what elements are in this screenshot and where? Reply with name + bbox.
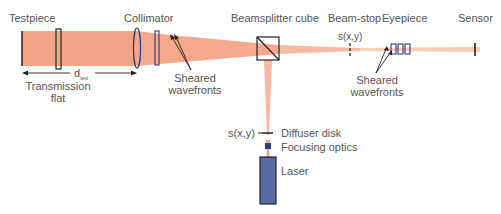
beam-narrow (278, 45, 360, 54)
laser-body (260, 157, 276, 204)
label-laser: Laser (281, 165, 309, 177)
label-sxy-bottom: s(x,y) (228, 127, 255, 139)
label-eyepiece: Eyepiece (382, 12, 427, 24)
label-sheared-wavefronts-2: Sheared wavefronts (342, 74, 412, 98)
interferometer-diagram (0, 0, 501, 214)
label-testpiece: Testpiece (9, 12, 55, 24)
label-beamstop: Beam-stop (328, 12, 381, 24)
label-collimator: Collimator (124, 12, 174, 24)
label-sxy-top: s(x,y) (338, 31, 362, 43)
label-focusing: Focusing optics (281, 141, 357, 153)
label-diffuser: Diffuser disk (281, 127, 341, 139)
label-sensor: Sensor (458, 12, 493, 24)
label-transmission-flat: Transmission flat (22, 80, 94, 104)
label-sheared-wavefronts-1: Sheared wavefronts (160, 72, 230, 96)
label-beamsplitter: Beamsplitter cube (231, 12, 319, 24)
beam-to-sensor (360, 47, 480, 52)
focusing-optics (265, 143, 271, 149)
beam-vertical (264, 60, 272, 135)
beam-wide (22, 31, 137, 66)
